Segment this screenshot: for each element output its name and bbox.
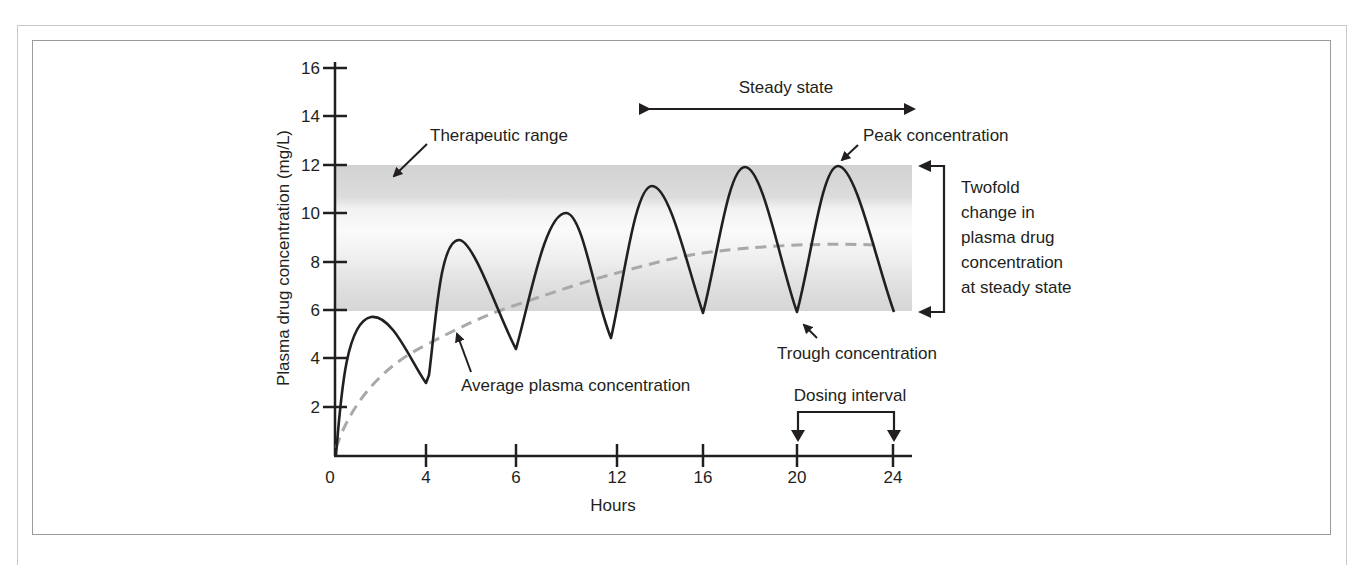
x-tick-6: 6 [511,468,520,487]
x-tick-0: 0 [325,468,334,487]
steady-state-label: Steady state [739,78,834,97]
dosing-interval-label: Dosing interval [794,386,906,405]
y-tick-12: 12 [301,156,320,175]
dosing-interval-bracket [798,412,894,432]
y-axis-title: Plasma drug concentration (mg/L) [274,130,293,386]
y-tick-labels: 16 14 12 10 8 6 4 2 [301,59,320,417]
dosing-arrowhead-left [791,430,805,442]
peak-concentration-arrow [842,145,858,160]
y-tick-6: 6 [311,301,320,320]
twofold-label: Twofold change in plasma drug concentrat… [961,178,1072,297]
twofold-arrowhead-bottom [918,306,931,318]
dosing-arrowhead-right [887,430,901,442]
x-axis-title: Hours [590,496,635,515]
x-tick-4: 4 [421,468,430,487]
twofold-line-2: change in [961,203,1035,222]
twofold-line-3: plasma drug [961,228,1055,247]
y-tick-2: 2 [311,398,320,417]
x-tick-20: 20 [788,468,807,487]
x-tick-24: 24 [884,468,903,487]
x-tick-labels: 0 4 6 12 16 20 24 [325,468,902,487]
twofold-line-4: concentration [961,253,1063,272]
y-tick-16: 16 [301,59,320,78]
average-concentration-arrow [457,334,471,372]
average-concentration-label: Average plasma concentration [461,376,690,395]
twofold-bracket [928,166,944,312]
x-tick-12: 12 [608,468,627,487]
trough-concentration-label: Trough concentration [777,344,937,363]
peak-concentration-label: Peak concentration [863,126,1009,145]
trough-concentration-arrow [804,325,817,338]
y-tick-4: 4 [311,349,320,368]
x-tick-16: 16 [694,468,713,487]
therapeutic-range-label: Therapeutic range [430,126,568,145]
x-axis [334,444,912,467]
twofold-line-5: at steady state [961,278,1072,297]
twofold-arrowhead-top [918,160,931,172]
twofold-line-1: Twofold [961,178,1020,197]
y-tick-8: 8 [311,253,320,272]
y-tick-10: 10 [301,204,320,223]
y-tick-14: 14 [301,107,320,126]
